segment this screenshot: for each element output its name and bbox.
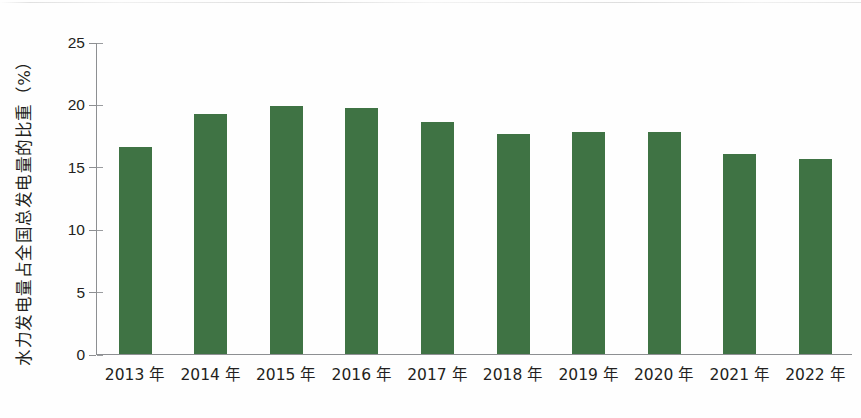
- y-axis-tick-label: 15: [68, 159, 85, 177]
- y-axis-tick-label: 0: [76, 346, 85, 364]
- x-axis-tick-label: 2013 年: [105, 362, 165, 384]
- x-axis-tick-label: 2019 年: [558, 362, 618, 384]
- y-axis-tick-label: 25: [68, 34, 85, 52]
- bar[interactable]: [723, 154, 756, 354]
- y-axis-title-container: 水力发电量占全国总发电量的比重（%）: [6, 0, 40, 418]
- y-axis-tick: [89, 43, 96, 44]
- x-axis-tick-label: 2014 年: [180, 362, 240, 384]
- x-axis-tick-label: 2015 年: [256, 362, 316, 384]
- x-axis-tick-label: 2017 年: [407, 362, 467, 384]
- y-axis-tick-label: 5: [76, 284, 85, 302]
- x-axis-labels: 2013 年2014 年2015 年2016 年2017 年2018 年2019…: [96, 362, 852, 392]
- x-axis-tick-label: 2021 年: [710, 362, 770, 384]
- bar[interactable]: [270, 106, 303, 354]
- bar[interactable]: [345, 108, 378, 354]
- y-axis-tick: [89, 167, 96, 168]
- bar[interactable]: [194, 114, 227, 354]
- y-axis-tick: [89, 105, 96, 106]
- y-axis-tick-label: 10: [68, 221, 85, 239]
- scan-artifact-line: [0, 2, 861, 3]
- bar[interactable]: [119, 147, 152, 354]
- y-axis-tick: [89, 292, 96, 293]
- x-axis-tick-label: 2022 年: [785, 362, 845, 384]
- chart-figure: 水力发电量占全国总发电量的比重（%） 0510152025 2013 年2014…: [0, 0, 861, 418]
- bar[interactable]: [572, 132, 605, 354]
- bar[interactable]: [497, 134, 530, 354]
- y-axis-tick: [89, 230, 96, 231]
- bar-series: [96, 43, 852, 355]
- y-axis-tick-label: 20: [68, 96, 85, 114]
- x-axis-tick-label: 2020 年: [634, 362, 694, 384]
- y-axis-title: 水力发电量占全国总发电量的比重（%）: [11, 52, 35, 366]
- bar[interactable]: [799, 159, 832, 354]
- x-axis-tick-label: 2016 年: [332, 362, 392, 384]
- y-axis-tick: [89, 355, 96, 356]
- x-axis-tick-label: 2018 年: [483, 362, 543, 384]
- bar[interactable]: [648, 132, 681, 354]
- plot-area: 0510152025: [96, 43, 852, 355]
- bar[interactable]: [421, 122, 454, 354]
